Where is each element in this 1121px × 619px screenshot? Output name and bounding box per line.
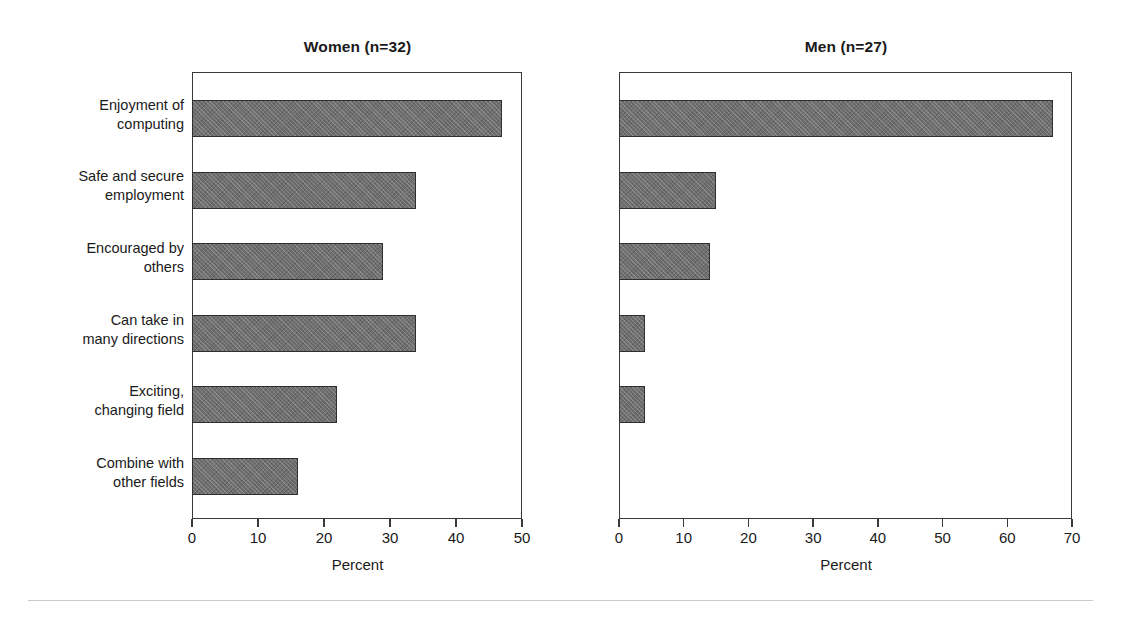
bar-men-0 [619, 100, 1053, 137]
x-tick-label-women-20: 20 [302, 529, 346, 546]
x-tick-men-70 [1071, 519, 1072, 527]
bar-row [0, 243, 1121, 280]
footer-divider [28, 600, 1093, 601]
x-tick-label-men-10: 10 [662, 529, 706, 546]
x-tick-men-60 [1007, 519, 1008, 527]
x-tick-label-women-50: 50 [500, 529, 544, 546]
bar-row [0, 172, 1121, 209]
x-axis-title-women: Percent [193, 556, 522, 573]
x-tick-women-0 [191, 519, 192, 527]
x-tick-women-20 [323, 519, 324, 527]
x-tick-label-men-50: 50 [921, 529, 965, 546]
x-tick-label-men-20: 20 [726, 529, 770, 546]
panel-title-men: Men (n=27) [620, 38, 1072, 56]
x-tick-label-men-40: 40 [856, 529, 900, 546]
x-tick-label-women-0: 0 [170, 529, 214, 546]
panel-title-women: Women (n=32) [193, 38, 522, 56]
plot-area-women [192, 72, 522, 519]
bar-men-1 [619, 172, 716, 209]
x-tick-label-men-60: 60 [985, 529, 1029, 546]
chart-figure: Women (n=32) Enjoyment of computing Safe… [0, 0, 1121, 619]
bar-row [0, 315, 1121, 352]
x-tick-men-30 [812, 519, 813, 527]
x-tick-men-50 [942, 519, 943, 527]
chart-panel-women: Women (n=32) Enjoyment of computing Safe… [0, 0, 545, 619]
bar-men-2 [619, 243, 710, 280]
x-tick-women-30 [389, 519, 390, 527]
x-tick-women-40 [455, 519, 456, 527]
plot-area-men [619, 72, 1072, 519]
x-tick-label-women-10: 10 [236, 529, 280, 546]
bar-men-4 [619, 386, 645, 423]
x-tick-men-20 [748, 519, 749, 527]
x-tick-label-women-30: 30 [368, 529, 412, 546]
x-tick-men-0 [618, 519, 619, 527]
x-tick-label-men-70: 70 [1050, 529, 1094, 546]
bar-row [0, 386, 1121, 423]
x-tick-men-10 [683, 519, 684, 527]
x-tick-men-40 [877, 519, 878, 527]
x-axis-title-men: Percent [620, 556, 1072, 573]
x-tick-label-men-0: 0 [597, 529, 641, 546]
x-tick-label-men-30: 30 [791, 529, 835, 546]
x-tick-women-10 [257, 519, 258, 527]
bar-row [0, 100, 1121, 137]
bar-row [0, 458, 1121, 495]
x-tick-women-50 [521, 519, 522, 527]
x-tick-label-women-40: 40 [434, 529, 478, 546]
bar-men-3 [619, 315, 645, 352]
